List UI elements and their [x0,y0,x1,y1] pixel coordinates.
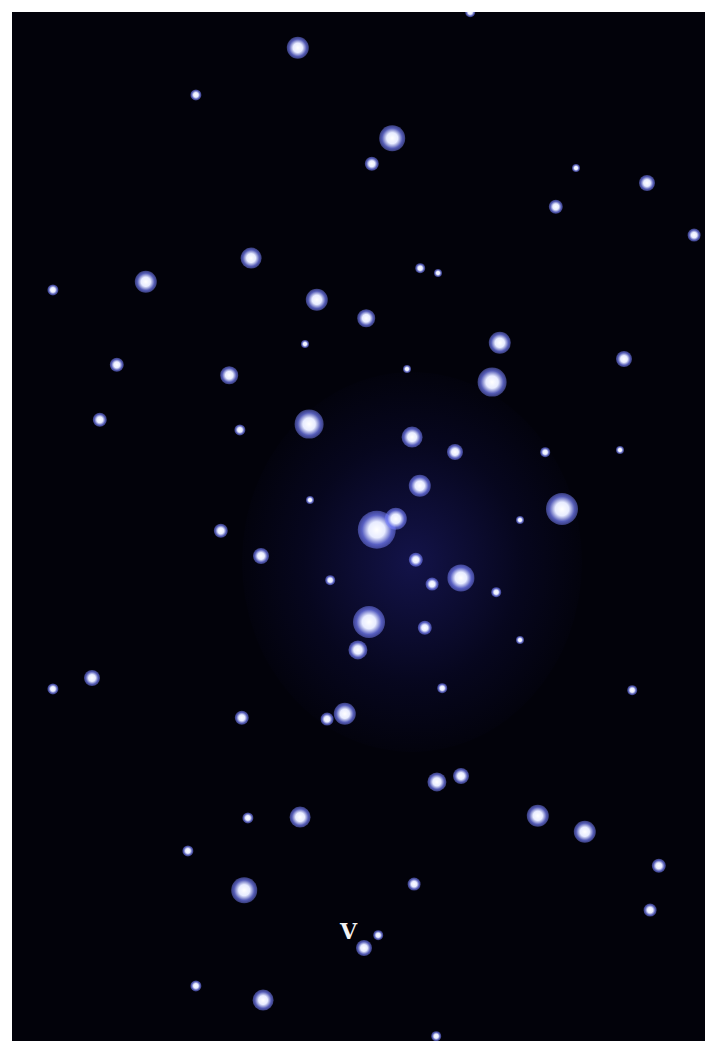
star [616,351,632,367]
star-cluster-photo: V [12,12,705,1041]
star [540,447,550,457]
star [242,812,253,823]
star [47,284,58,295]
star [321,713,334,726]
star [253,548,269,564]
star [110,358,124,372]
star [290,807,311,828]
star [325,575,335,585]
star [241,248,262,269]
star [190,89,201,100]
star [527,805,549,827]
star [214,524,228,538]
star [235,711,249,725]
star [182,845,193,856]
star [231,877,257,903]
star [453,768,469,784]
star [465,12,475,17]
star [616,446,624,454]
star [357,309,375,327]
star [402,427,423,448]
star [572,164,580,172]
star [306,289,328,311]
star [93,413,107,427]
star [190,980,201,991]
star [84,670,100,686]
variable-star-label: V [340,918,357,944]
star [574,821,596,843]
star [431,1031,441,1041]
star [295,410,324,439]
star [365,157,379,171]
star [516,636,524,644]
star [491,587,501,597]
star [379,125,405,151]
star [287,37,309,59]
star [688,229,701,242]
star [516,516,524,524]
star [489,332,511,354]
star [373,930,383,940]
star [353,606,385,638]
star [220,366,238,384]
star [47,683,58,694]
star [478,368,507,397]
star [403,365,411,373]
star [415,263,425,273]
star [306,496,314,504]
star [434,269,442,277]
star [408,878,421,891]
star [652,859,666,873]
star [356,940,372,956]
star [644,904,657,917]
star [135,271,157,293]
star [253,990,274,1011]
star [627,685,637,695]
star [301,340,309,348]
star [234,424,245,435]
star [546,493,578,525]
star [639,175,655,191]
star [437,683,447,693]
star [447,444,463,460]
star [426,578,439,591]
star [549,200,563,214]
star [427,772,446,791]
